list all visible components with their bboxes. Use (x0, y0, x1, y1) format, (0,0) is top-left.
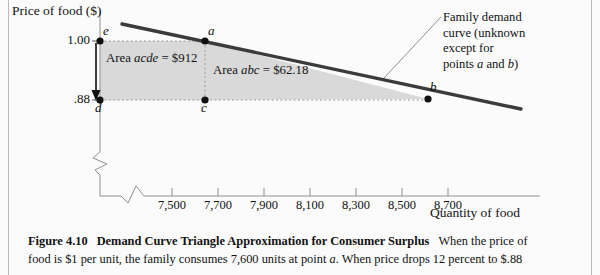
caption-figure-number: Figure 4.10 (28, 234, 88, 248)
figure-caption: Figure 4.10Demand Curve Triangle Approxi… (28, 233, 576, 267)
point-label-a: a (208, 24, 215, 38)
area-label-abc: Area abc = $62.18 (213, 64, 308, 77)
point-label-c: c (201, 101, 207, 115)
figure-plot-area: Price of food ($) Quantity of food 1.00 … (0, 0, 600, 232)
point-label-d: d (95, 101, 102, 115)
price-drop-arrow (92, 43, 101, 101)
area-abc-value: = $62.18 (260, 63, 309, 77)
y-tick-label-1: 1.00 (46, 33, 90, 47)
data-point-a (201, 37, 208, 44)
x-tick-label-5: 8,300 (331, 199, 381, 212)
annotation-line-4: points a and b) (443, 57, 593, 73)
caption-title: Demand Curve Triangle Approximation for … (97, 234, 430, 248)
annotation-line-2: curve (unknown (443, 26, 593, 42)
area-acde-prefix: Area (106, 51, 134, 65)
annotation-leader-line (384, 17, 441, 78)
data-point-b (424, 95, 431, 102)
point-label-e: e (103, 24, 109, 38)
area-abc-prefix: Area (213, 63, 241, 77)
annotation-line-4-post: ) (514, 57, 518, 71)
annotation-line-3: except for (443, 41, 593, 57)
x-axis-break-icon (121, 186, 144, 203)
caption-body-line1: When the price of (438, 234, 527, 248)
area-acde-value: = $912 (158, 51, 197, 65)
x-tick-label-2: 7,700 (193, 199, 243, 212)
area-abc-symbol: abc (241, 63, 259, 77)
caption-body-line2-post: . When price drops 12 percent to $.88 (336, 252, 523, 266)
y-axis-break-icon (93, 152, 107, 175)
area-acde-symbol: acde (134, 51, 158, 65)
point-label-b: b (430, 80, 437, 94)
x-tick-label-3: 7,900 (239, 199, 289, 212)
annotation-line-1: Family demand (443, 10, 593, 26)
x-tick-label-1: 7,500 (147, 199, 197, 212)
y-tick-label-2: .88 (46, 92, 90, 106)
caption-body-line2-pre: food is $1 per unit, the family consumes… (28, 252, 329, 266)
demand-curve-annotation: Family demand curve (unknown except for … (443, 10, 593, 73)
x-axis-ticks (172, 188, 448, 196)
caption-body-line2: food is $1 per unit, the family consumes… (28, 251, 576, 268)
x-tick-label-7: 8,700 (423, 199, 473, 212)
annotation-line-4-pre: points (443, 57, 477, 71)
x-tick-label-6: 8,500 (377, 199, 427, 212)
shaded-rectangle-acde (100, 41, 205, 100)
data-point-e (96, 37, 103, 44)
area-label-acde: Area acde = $912 (106, 52, 197, 65)
annotation-line-4-mid: and (483, 57, 507, 71)
figure-page: Price of food ($) Quantity of food 1.00 … (0, 0, 600, 275)
y-axis-title: Price of food ($) (12, 4, 102, 18)
x-tick-label-4: 8,100 (285, 199, 335, 212)
